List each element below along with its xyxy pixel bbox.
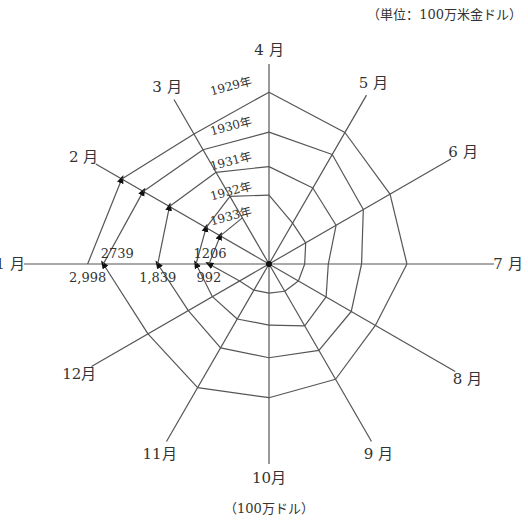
month-label: 6 月 — [448, 143, 477, 161]
axis-8 — [269, 264, 455, 372]
series-segment — [336, 325, 376, 379]
spiral-chart: 1 月2 月3 月4 月5 月6 月7 月8 月9 月10月11月12月2,99… — [0, 0, 528, 530]
axis-12 — [91, 264, 269, 367]
series-segment — [375, 264, 407, 325]
series-segment — [269, 291, 285, 293]
series-segment — [305, 243, 306, 264]
month-label: 8 月 — [453, 370, 482, 388]
year-label: 1932年 — [209, 179, 254, 204]
month-label: 1 月 — [0, 255, 25, 273]
month-label: 10月 — [252, 469, 286, 487]
series-segment — [237, 319, 269, 325]
axis-5 — [269, 95, 367, 264]
series-segment — [188, 311, 220, 348]
value-label: 1206 — [193, 246, 226, 261]
series-segment — [298, 264, 304, 281]
year-label: 1930年 — [209, 114, 254, 139]
series-segment — [269, 379, 336, 397]
series-segment — [148, 334, 198, 388]
series-segment — [328, 225, 336, 264]
series-segment — [269, 167, 313, 188]
series-segment — [345, 132, 390, 194]
series-segment — [319, 311, 351, 350]
value-label: 2739 — [101, 246, 134, 261]
series-segment — [212, 297, 237, 319]
month-label: 11月 — [142, 445, 176, 463]
series-segment — [254, 290, 269, 293]
series-segment — [158, 207, 170, 264]
month-label: 4 月 — [254, 41, 283, 59]
month-label: 12月 — [62, 365, 96, 383]
center-point — [266, 261, 272, 267]
year-label: 1929年 — [209, 74, 254, 99]
series-segment — [221, 348, 269, 358]
month-label: 3 月 — [152, 78, 181, 96]
bottom-unit-label: （100万ドル） — [0, 498, 528, 517]
series-segment — [122, 134, 194, 179]
series-segment — [326, 264, 328, 297]
value-label: 2,998 — [69, 270, 106, 285]
series-segment — [313, 188, 336, 225]
axis-11 — [167, 264, 270, 442]
series-segment — [285, 281, 299, 291]
series-segment — [351, 264, 361, 311]
series-segment — [390, 194, 407, 264]
month-axes — [24, 64, 494, 464]
value-label: 1,839 — [139, 270, 176, 285]
series-segment — [269, 92, 345, 132]
series-segment — [269, 132, 332, 154]
year-label: 1931年 — [209, 149, 254, 174]
axis-6 — [269, 159, 451, 264]
series-lines — [88, 92, 407, 398]
series-segment — [293, 223, 306, 243]
month-label: 7 月 — [493, 255, 522, 273]
month-label: 9 月 — [364, 445, 393, 463]
series-segment — [332, 154, 363, 209]
series-segment — [198, 388, 269, 398]
value-label: 992 — [197, 270, 222, 285]
series-segment — [269, 325, 305, 326]
series-segment — [143, 150, 203, 192]
series-segment — [269, 350, 319, 357]
series-segment — [305, 297, 326, 326]
month-label: 5 月 — [359, 74, 388, 92]
series-segment — [269, 195, 293, 223]
series-segment — [362, 210, 364, 264]
month-label: 2 月 — [69, 148, 98, 166]
series-segment — [240, 281, 254, 290]
